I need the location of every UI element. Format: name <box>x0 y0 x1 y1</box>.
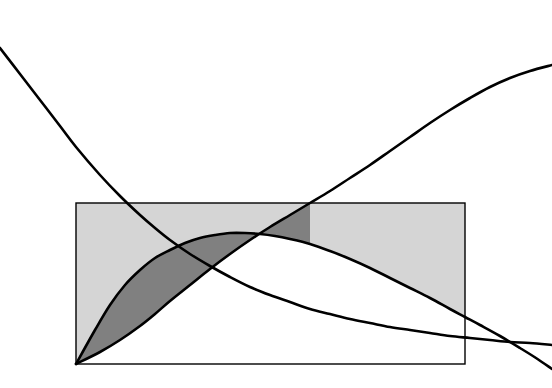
chart-canvas <box>0 0 552 388</box>
figure-root <box>0 0 552 388</box>
